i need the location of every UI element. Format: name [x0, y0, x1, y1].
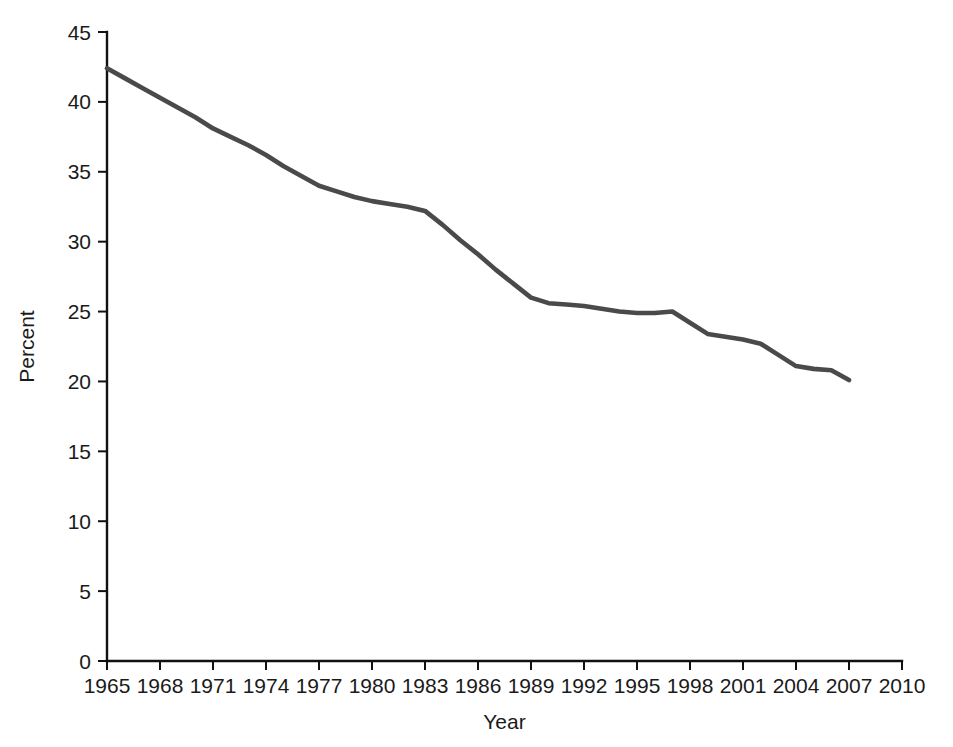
x-tick-label: 2007: [826, 674, 873, 697]
y-axis-title: Percent: [15, 310, 38, 383]
y-tick-label: 40: [68, 90, 91, 113]
x-axis-title: Year: [483, 710, 525, 733]
y-tick-label: 5: [79, 580, 91, 603]
x-tick-label: 2004: [773, 674, 820, 697]
x-tick-label: 1974: [243, 674, 290, 697]
x-tick-label: 1983: [402, 674, 449, 697]
y-tick-label: 10: [68, 510, 91, 533]
x-tick-label: 1980: [349, 674, 396, 697]
chart-background: [0, 0, 953, 747]
x-tick-label: 2010: [879, 674, 926, 697]
y-tick-label: 25: [68, 300, 91, 323]
y-tick-label: 15: [68, 440, 91, 463]
chart-container: 051015202530354045 196519681971197419771…: [0, 0, 953, 747]
x-tick-label: 1968: [137, 674, 184, 697]
x-tick-label: 2001: [720, 674, 767, 697]
x-tick-label: 1977: [296, 674, 343, 697]
y-tick-label: 20: [68, 370, 91, 393]
line-chart: 051015202530354045 196519681971197419771…: [0, 0, 953, 747]
x-tick-label: 1992: [561, 674, 608, 697]
y-tick-label: 35: [68, 160, 91, 183]
x-tick-label: 1989: [508, 674, 555, 697]
y-tick-label: 0: [79, 650, 91, 673]
x-tick-label: 1995: [614, 674, 661, 697]
x-tick-label: 1965: [84, 674, 131, 697]
x-tick-label: 1971: [190, 674, 237, 697]
y-tick-label: 30: [68, 230, 91, 253]
x-tick-label: 1986: [455, 674, 502, 697]
x-tick-label: 1998: [667, 674, 714, 697]
y-tick-label: 45: [68, 21, 91, 44]
